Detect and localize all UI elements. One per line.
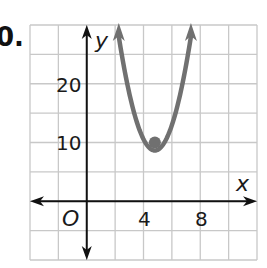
y-tick-20: 20 — [56, 73, 81, 97]
x-tick-8: 8 — [195, 207, 208, 231]
x-axis-label: x — [235, 171, 250, 196]
y-tick-10: 10 — [56, 131, 81, 155]
x-tick-4: 4 — [138, 207, 151, 231]
parabola-curve — [113, 23, 197, 151]
parabola-graph: y x O 4 8 10 20 — [0, 0, 267, 268]
origin-label: O — [62, 206, 79, 231]
vertex-point — [149, 137, 161, 149]
y-axis-label: y — [94, 28, 109, 53]
